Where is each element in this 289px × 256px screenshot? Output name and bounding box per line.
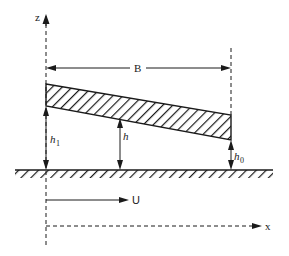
slider-pad xyxy=(46,84,231,140)
arrow-right-icon xyxy=(221,65,231,71)
velocity-label: U xyxy=(132,194,140,206)
width-dimension-b: B xyxy=(46,62,231,74)
arrow-down-icon xyxy=(43,160,49,170)
z-axis: z xyxy=(35,11,50,245)
stationary-surface xyxy=(15,170,273,178)
h1-dimension: h 1 xyxy=(43,106,60,170)
h-label: h xyxy=(123,130,129,142)
z-axis-label: z xyxy=(35,11,40,23)
z-arrow-icon xyxy=(43,14,50,24)
arrow-left-icon xyxy=(46,65,56,71)
arrow-down-icon xyxy=(117,160,123,170)
h0-dimension: h 0 xyxy=(228,140,244,170)
width-label: B xyxy=(134,62,141,74)
x-axis-label: x xyxy=(265,220,271,232)
arrow-up-icon xyxy=(43,106,49,116)
x-arrow-icon xyxy=(252,223,262,229)
h0-subscript: 0 xyxy=(240,156,244,165)
slider-bearing-diagram: z B h 1 h h 0 xyxy=(0,0,289,256)
arrow-up-icon xyxy=(228,140,234,150)
arrow-right-icon xyxy=(119,197,129,203)
h1-subscript: 1 xyxy=(56,139,60,148)
x-axis: x xyxy=(46,220,271,232)
h-dimension: h xyxy=(117,118,129,170)
velocity-u: U xyxy=(46,194,140,206)
